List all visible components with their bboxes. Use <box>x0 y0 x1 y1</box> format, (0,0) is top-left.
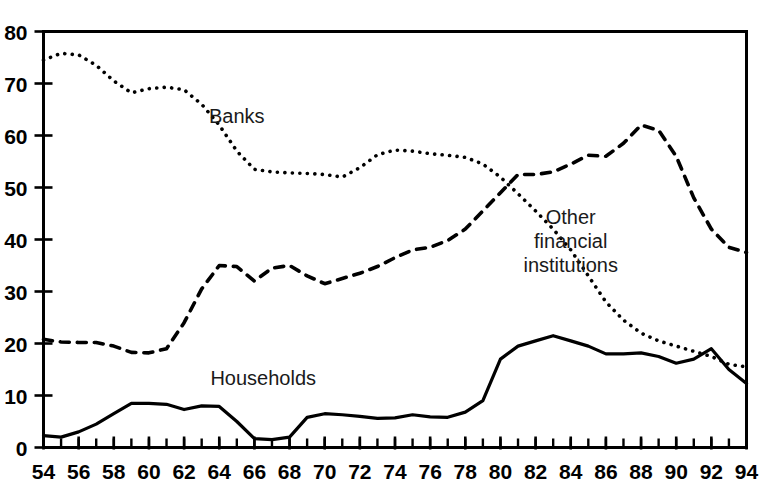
y-tick-label: 30 <box>4 281 27 304</box>
series-label-banks: Banks <box>209 105 265 127</box>
y-tick-label: 50 <box>4 177 27 200</box>
x-tick-label: 72 <box>348 460 371 482</box>
x-axis-major-ticks <box>44 437 747 450</box>
series-annotations: Banks Households Other financial institu… <box>209 105 618 390</box>
x-tick-label: 90 <box>665 460 688 482</box>
y-tick-label: 0 <box>16 437 28 460</box>
x-tick-label: 68 <box>278 460 302 482</box>
y-tick-label: 40 <box>4 229 27 252</box>
series-label-households: Households <box>210 367 316 389</box>
y-axis-tick-labels: 01020304050607080 <box>4 21 27 460</box>
series-label-other-line3: institutions <box>524 254 619 276</box>
data-series-group <box>44 53 747 439</box>
x-tick-label: 60 <box>137 460 160 482</box>
x-tick-label: 92 <box>700 460 723 482</box>
x-tick-label: 86 <box>594 460 617 482</box>
y-tick-label: 60 <box>4 125 27 148</box>
x-tick-label: 58 <box>102 460 126 482</box>
x-tick-label: 62 <box>172 460 195 482</box>
series-label-other-line1: Other <box>546 206 596 228</box>
x-axis-tick-labels: 5456586062646668707274767880828486889092… <box>32 460 759 482</box>
x-tick-label: 74 <box>383 460 407 482</box>
y-tick-label: 20 <box>4 333 27 356</box>
chart-axes <box>44 32 747 448</box>
line-chart: 01020304050607080 5456586062646668707274… <box>0 0 761 482</box>
x-tick-label: 88 <box>629 460 653 482</box>
x-tick-label: 78 <box>454 460 478 482</box>
x-tick-label: 76 <box>418 460 441 482</box>
x-tick-label: 94 <box>735 460 759 482</box>
x-tick-label: 54 <box>32 460 56 482</box>
x-tick-label: 84 <box>559 460 583 482</box>
series-line-other-financial-institutions <box>44 125 747 353</box>
plot-frame <box>44 32 747 448</box>
x-tick-label: 56 <box>67 460 90 482</box>
series-line-banks <box>44 53 747 367</box>
x-tick-label: 64 <box>208 460 232 482</box>
x-tick-label: 70 <box>313 460 336 482</box>
x-tick-label: 66 <box>243 460 266 482</box>
series-label-other-line2: financial <box>534 230 607 252</box>
chart-container: 01020304050607080 5456586062646668707274… <box>0 0 761 482</box>
x-tick-label: 80 <box>489 460 512 482</box>
y-tick-label: 80 <box>4 21 27 44</box>
y-tick-label: 10 <box>4 385 27 408</box>
x-tick-label: 82 <box>524 460 547 482</box>
y-tick-label: 70 <box>4 73 27 96</box>
